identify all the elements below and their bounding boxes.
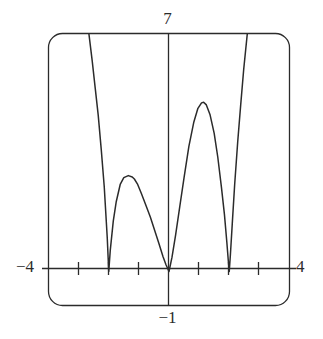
graph-figure: 7 −1 −4 4 <box>0 0 323 339</box>
plot-canvas <box>0 0 323 339</box>
